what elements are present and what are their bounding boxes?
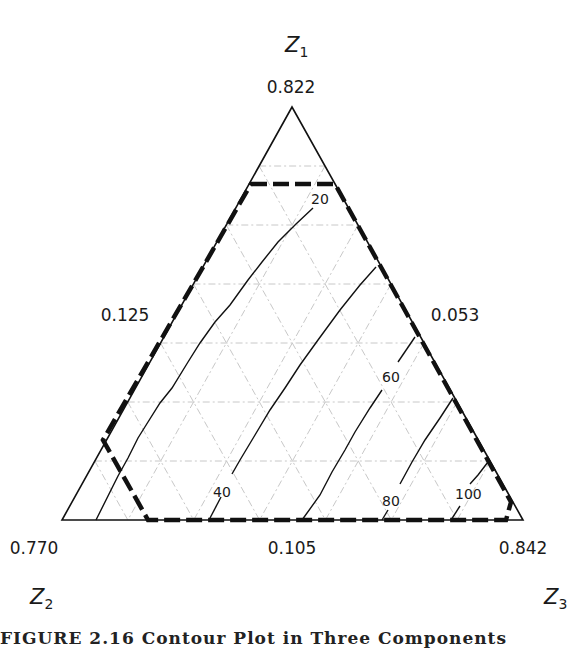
axis-name-z2: Z2 xyxy=(29,585,53,612)
contour-20 xyxy=(96,208,313,520)
contour-label-20: 20 xyxy=(311,191,329,207)
grid-line xyxy=(194,225,358,520)
contour-label-40: 40 xyxy=(213,484,231,500)
axis-name-z1: Z1 xyxy=(284,33,308,60)
contour-100 xyxy=(470,462,488,484)
bottom-right-vertex-value: 0.842 xyxy=(499,538,548,558)
contour-label-60: 60 xyxy=(382,369,400,385)
contour-60 xyxy=(398,337,415,362)
left-edge-value: 0.125 xyxy=(101,305,150,325)
figure-caption: FIGURE 2.16 Contour Plot in Three Compon… xyxy=(0,628,507,648)
contour-40 xyxy=(232,267,376,474)
contour-lines xyxy=(96,208,488,520)
axis-name-z3: Z3 xyxy=(543,585,567,612)
bottom-left-vertex-value: 0.770 xyxy=(10,538,59,558)
grid-line xyxy=(226,225,391,520)
grid-lines xyxy=(95,166,490,520)
grid-line xyxy=(161,343,260,520)
contour-80 xyxy=(400,398,453,484)
contour-60-tail xyxy=(302,390,382,520)
constraint-region xyxy=(103,184,511,520)
contour-label-100: 100 xyxy=(455,486,482,502)
bottom-edge-value: 0.105 xyxy=(268,538,317,558)
contour-40-tail xyxy=(209,497,221,520)
right-edge-value: 0.053 xyxy=(431,305,480,325)
contour-label-80: 80 xyxy=(382,493,400,509)
top-vertex-value: 0.822 xyxy=(267,77,316,97)
grid-line xyxy=(325,343,424,520)
